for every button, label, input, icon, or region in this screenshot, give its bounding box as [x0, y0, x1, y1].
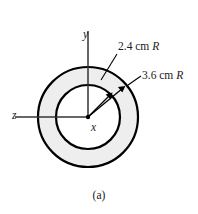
inner-radius-label: 2.4 cm R	[118, 41, 159, 53]
figure-caption: (a)	[0, 189, 198, 201]
outer-radius-label: 3.6 cm R	[142, 70, 183, 82]
y-axis-label: y	[83, 29, 88, 41]
figure-graphics	[0, 0, 198, 214]
z-axis-label: z	[12, 110, 16, 122]
outer-radius-leader-line	[128, 76, 141, 85]
annulus-figure: 2.4 cm R 3.6 cm R y z x (a)	[0, 0, 198, 214]
x-axis-label: x	[91, 122, 96, 134]
